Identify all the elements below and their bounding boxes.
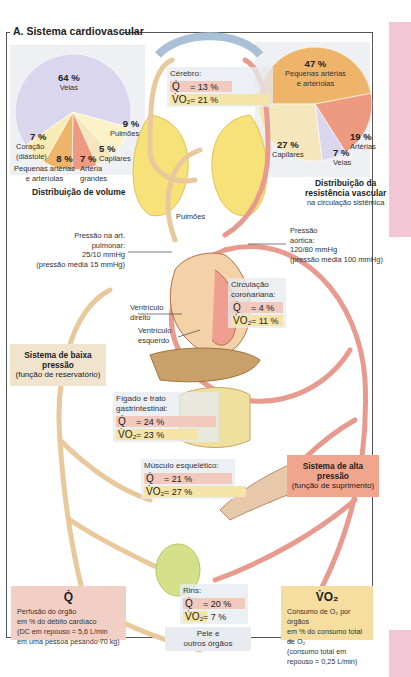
- resistance-slice-pequenas-arterias: 47 % Pequenas artérias e arteríolas: [285, 58, 346, 88]
- coronary-vo2-row: V̇O₂= 11 %: [231, 315, 283, 326]
- organ-liver-gi: Fígado e trato gastrintestinal: Q̇= 24 %…: [113, 392, 219, 442]
- resistance-slice-arterias: 19 % Artérias: [350, 131, 376, 152]
- high-pressure-system-box: Sistema de alta pressão (função de supri…: [287, 455, 379, 497]
- organ-brain: Cérebro: Q̇= 13 % V̇O₂= 21 %: [167, 67, 273, 107]
- volume-chart-title: Distribuição de volume: [32, 188, 126, 198]
- brain-vo2-row: V̇O₂= 21 %: [170, 94, 270, 105]
- volume-slice-arterias-grandes: 7 % Artéria grandes: [80, 153, 107, 183]
- aortic-pressure-label: Pressão aórtica: 120/80 mmHg (pressão mé…: [290, 226, 383, 264]
- organ-kidneys: Rins: Q̇= 20 % V̇O₂= 7 %: [180, 584, 248, 624]
- kidneys-q-row: Q̇= 20 %: [183, 598, 245, 609]
- q-legend-box: Q̇ Perfusão do órgão em % do débito card…: [11, 586, 126, 640]
- organ-coronary: Circulação coronariana: Q̇= 4 % V̇O₂= 11…: [228, 278, 286, 328]
- organ-skin-other: Pele e outros órgãos: [165, 627, 251, 651]
- muscle-vo2-row: V̇O₂= 27 %: [144, 486, 246, 497]
- lungs-label: Pulmões: [176, 212, 205, 222]
- resistance-slice-veias: 7 % Veias: [333, 147, 351, 168]
- volume-slice-pulmoes: 9 % Pulmões: [110, 118, 139, 139]
- right-ventricle-label: Ventrículo direito: [130, 303, 163, 322]
- coronary-q-row: Q̇= 4 %: [231, 302, 283, 313]
- liver: [150, 348, 260, 382]
- pulmonary-pressure-label: Pressão na art. pulmonar: 25/10 mmHg (pr…: [30, 231, 125, 269]
- resistance-chart-title: Distribuição da resistência vascular na …: [305, 178, 386, 208]
- resistance-slice-capilares: 27 % Capilares: [272, 139, 304, 160]
- muscle-q-row: Q̇= 21 %: [144, 473, 232, 484]
- liver-gi-vo2-row: V̇O₂= 23 %: [116, 429, 198, 440]
- organ-muscle: Músculo esquelético: Q̇= 21 % V̇O₂= 27 %: [141, 459, 235, 499]
- kidneys-vo2-row: V̇O₂= 7 %: [183, 611, 230, 622]
- brain-q-row: Q̇= 13 %: [170, 81, 232, 92]
- low-pressure-system-box: Sistema de baixa pressão (função de rese…: [10, 344, 106, 386]
- volume-slice-coracao: 7 % Coração (diástole): [16, 131, 47, 161]
- vo2-legend-box: V̇O₂ Consumo de O₂ por órgãos em % do co…: [281, 586, 373, 640]
- volume-slice-veias: 64 % Veias: [58, 72, 80, 93]
- brain-capillaries: [158, 36, 260, 55]
- left-ventricle-label: Ventrículo esquerdo: [138, 326, 171, 345]
- liver-gi-q-row: Q̇= 24 %: [116, 416, 216, 427]
